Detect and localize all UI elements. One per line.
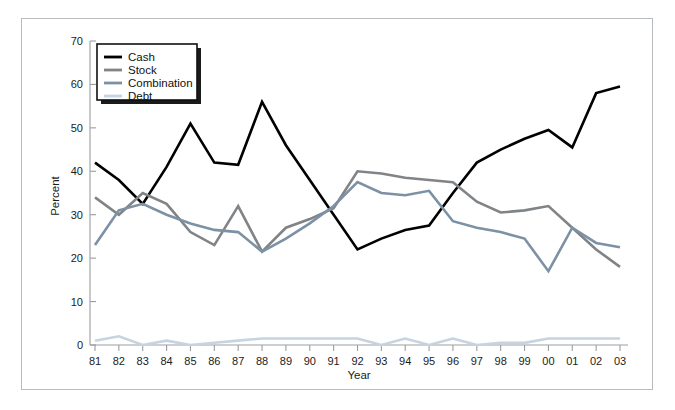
y-tick-labels: 010203040506070 (71, 35, 83, 351)
y-tick-label: 70 (71, 35, 83, 47)
x-tick-label: 83 (137, 355, 149, 367)
x-tick-label: 82 (113, 355, 125, 367)
legend-label-cash: Cash (128, 51, 155, 63)
y-axis-title: Percent (49, 175, 61, 215)
y-tick-label: 40 (71, 165, 83, 177)
x-tick-label: 95 (423, 355, 435, 367)
x-tick-label: 03 (614, 355, 626, 367)
x-tick-label: 85 (184, 355, 196, 367)
series-line-combination (95, 182, 620, 271)
y-axis: 010203040506070 Percent (49, 35, 96, 351)
x-tick-label: 89 (280, 355, 292, 367)
x-tick-label: 98 (495, 355, 507, 367)
x-tick-label: 02 (590, 355, 602, 367)
series-group (95, 87, 620, 345)
y-tick-label: 0 (77, 339, 83, 351)
x-tick-label: 93 (375, 355, 387, 367)
legend: CashStockCombinationDebt (97, 44, 201, 104)
x-axis-title: Year (347, 369, 370, 381)
x-tick-label: 00 (542, 355, 554, 367)
x-tick-label: 86 (208, 355, 220, 367)
x-tick-marks (95, 345, 620, 351)
y-tick-label: 20 (71, 252, 83, 264)
chart-svg: 010203040506070 Percent 8182838485868788… (0, 0, 675, 410)
x-tick-label: 81 (89, 355, 101, 367)
x-tick-label: 91 (328, 355, 340, 367)
legend-label-stock: Stock (128, 64, 157, 76)
x-tick-label: 97 (471, 355, 483, 367)
series-line-debt (95, 336, 620, 345)
x-axis: 8182838485868788899091929394959697989900… (89, 345, 628, 381)
series-line-cash (95, 87, 620, 250)
y-tick-label: 30 (71, 209, 83, 221)
x-tick-label: 87 (232, 355, 244, 367)
x-tick-label: 92 (351, 355, 363, 367)
x-tick-labels: 8182838485868788899091929394959697989900… (89, 355, 626, 367)
y-tick-marks (90, 41, 96, 345)
legend-label-debt: Debt (128, 90, 153, 102)
x-tick-label: 96 (447, 355, 459, 367)
series-line-stock (95, 171, 620, 267)
x-tick-label: 01 (566, 355, 578, 367)
x-tick-label: 88 (256, 355, 268, 367)
x-tick-label: 90 (304, 355, 316, 367)
x-tick-label: 99 (518, 355, 530, 367)
y-tick-label: 50 (71, 122, 83, 134)
y-tick-label: 10 (71, 296, 83, 308)
y-tick-label: 60 (71, 78, 83, 90)
legend-label-combination: Combination (128, 77, 193, 89)
x-tick-label: 84 (160, 355, 172, 367)
x-tick-label: 94 (399, 355, 411, 367)
line-chart: 010203040506070 Percent 8182838485868788… (0, 0, 675, 410)
